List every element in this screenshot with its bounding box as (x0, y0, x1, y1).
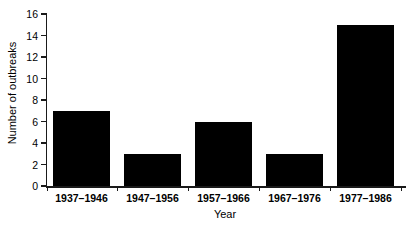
y-tick-label: 8 (14, 95, 38, 105)
bar-chart-figure: Number of outbreaks 0246810121416 1937–1… (0, 0, 410, 229)
x-tick-label: 1977–1986 (330, 192, 401, 204)
bar (266, 154, 324, 186)
x-tick-label: 1957–1966 (188, 192, 259, 204)
y-tick-label: 4 (14, 138, 38, 148)
x-tick-label: 1947–1956 (117, 192, 188, 204)
y-tick-label: 2 (14, 160, 38, 170)
plot-area (46, 14, 401, 186)
x-axis-line (46, 186, 406, 188)
y-tick-label: 6 (14, 117, 38, 127)
y-tick-label: 12 (14, 52, 38, 62)
x-tick-label: 1937–1946 (46, 192, 117, 204)
x-tick-mark (259, 187, 260, 191)
y-tick-label: 0 (14, 181, 38, 191)
bar (53, 111, 111, 186)
y-tick-label: 16 (14, 9, 38, 19)
bar (124, 154, 182, 186)
x-tick-mark (188, 187, 189, 191)
x-tick-mark (401, 187, 402, 191)
x-axis-title: Year (46, 208, 404, 220)
y-tick-label: 14 (14, 31, 38, 41)
x-tick-mark (47, 187, 48, 191)
x-tick-label: 1967–1976 (259, 192, 330, 204)
bar (195, 122, 253, 187)
y-tick-label: 10 (14, 74, 38, 84)
y-axis-title: Number of outbreaks (4, 0, 20, 186)
x-tick-mark (117, 187, 118, 191)
x-tick-mark (330, 187, 331, 191)
bar (337, 25, 395, 186)
